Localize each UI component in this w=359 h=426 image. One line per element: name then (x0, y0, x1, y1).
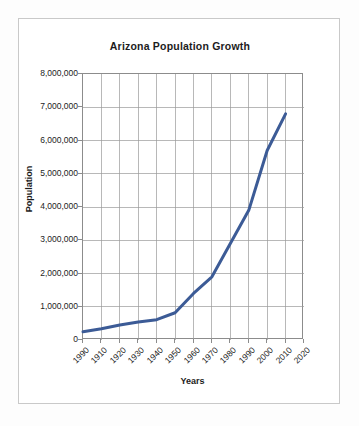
y-axis-tick-label: 7,000,000 (20, 101, 78, 111)
plot-svg (83, 74, 304, 340)
x-axis-tick-mark (248, 339, 249, 343)
x-axis-tick-mark (137, 339, 138, 343)
x-axis-tick-mark (156, 339, 157, 343)
x-axis-tick-mark (193, 339, 194, 343)
y-axis-tick-label: 1,000,000 (20, 301, 78, 311)
x-axis-tick-mark (82, 339, 83, 343)
x-axis-tick-mark (211, 339, 212, 343)
x-axis-tick-mark (266, 339, 267, 343)
x-axis-tick-mark (100, 339, 101, 343)
y-axis-tick-label: 8,000,000 (20, 68, 78, 78)
y-axis-title: Population (24, 139, 34, 239)
x-axis-tick-mark (285, 339, 286, 343)
y-axis-tick-label: 2,000,000 (20, 268, 78, 278)
y-axis-tick-label: 0 (20, 334, 78, 344)
x-axis-tick-mark (229, 339, 230, 343)
x-axis-tick-mark (174, 339, 175, 343)
x-axis-title: Years (82, 376, 303, 386)
x-axis-tick-mark (119, 339, 120, 343)
chart-card: Arizona Population Growth 8,000,0007,000… (18, 18, 340, 404)
x-axis-tick-layer: 1990191019201930194019501960197019801990… (82, 339, 303, 399)
x-axis-tick-mark (303, 339, 304, 343)
chart-title: Arizona Population Growth (19, 40, 341, 52)
plot-area (82, 73, 303, 339)
population-line-series (83, 114, 286, 332)
